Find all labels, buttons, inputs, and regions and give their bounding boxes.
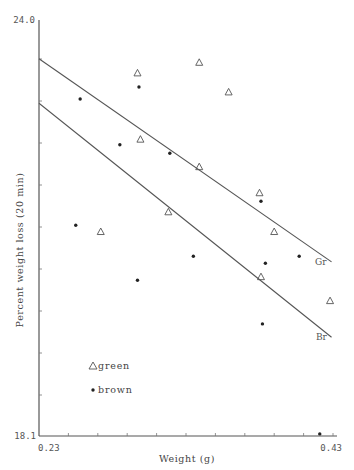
brown-point <box>137 85 140 88</box>
regression-lines <box>39 59 332 338</box>
green-point <box>97 228 104 235</box>
brown-point <box>192 255 195 258</box>
legend-brown-label: brown <box>98 384 133 395</box>
brown-point <box>261 322 264 325</box>
green-point <box>225 88 232 95</box>
x-axis-label: Weight (g) <box>159 453 215 464</box>
scatter-chart: 24.0 18.1 0.23 0.43 Weight (g) Percent w… <box>0 0 354 470</box>
br-line-label: Br <box>316 332 328 342</box>
x-tick-right: 0.43 <box>320 443 342 453</box>
green-point <box>271 228 278 235</box>
brown-point <box>118 143 121 146</box>
brown-point <box>78 97 81 100</box>
triangle-icon <box>89 362 97 369</box>
regression-line-br <box>39 103 332 337</box>
x-tick-left: 0.23 <box>38 443 60 453</box>
brown-point <box>318 432 321 435</box>
green-point <box>196 59 203 66</box>
axes <box>39 20 337 436</box>
brown-point <box>297 255 300 258</box>
y-tick-top: 24.0 <box>13 15 35 25</box>
regression-line-gr <box>39 59 332 262</box>
green-point <box>327 297 334 304</box>
y-tick-bottom: 18.1 <box>14 431 36 441</box>
brown-point <box>168 152 171 155</box>
brown-point <box>136 278 139 281</box>
legend-green-label: green <box>98 360 130 371</box>
legend: green brown <box>89 360 133 395</box>
brown-point <box>259 200 262 203</box>
y-axis-label: Percent weight loss (20 min) <box>14 173 25 328</box>
brown-point <box>264 262 267 265</box>
green-point <box>256 189 263 196</box>
dot-icon <box>91 388 94 391</box>
brown-point <box>74 223 77 226</box>
green-point <box>134 69 141 76</box>
gr-line-label: Gr <box>315 257 327 267</box>
data-points <box>74 59 334 436</box>
green-point <box>137 136 144 143</box>
